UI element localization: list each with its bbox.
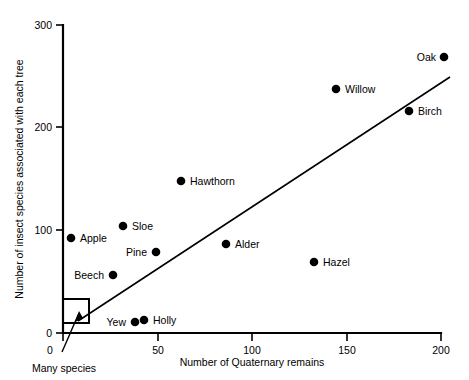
point-label: Hazel: [323, 256, 350, 268]
data-point-sloe[interactable]: Sloe: [119, 220, 153, 232]
point-marker[interactable]: [67, 234, 76, 243]
point-label: Pine: [126, 246, 147, 258]
x-axis-ticks: [63, 333, 441, 341]
point-label: Holly: [153, 314, 177, 326]
data-point-oak[interactable]: Oak: [417, 51, 449, 63]
y-axis-title: Number of insect species associated with…: [13, 59, 25, 298]
data-point-beech[interactable]: Beech: [74, 269, 117, 281]
scatter-chart: 300 200 100 0 0 50 100 150 200 Number of…: [0, 0, 469, 380]
data-points: Oak Willow Birch Hawthorn Sloe Apple: [67, 51, 449, 328]
x-tick-label-100: 100: [243, 344, 261, 356]
point-label: Alder: [235, 238, 260, 250]
trend-line: [78, 77, 450, 321]
point-label: Sloe: [132, 220, 153, 232]
x-tick-label-0: 0: [47, 344, 53, 356]
point-marker[interactable]: [440, 53, 449, 62]
y-tick-label-100: 100: [34, 224, 52, 236]
point-marker[interactable]: [109, 271, 118, 280]
point-label: Hawthorn: [190, 175, 235, 187]
point-label: Birch: [418, 105, 442, 117]
point-label: Apple: [80, 232, 107, 244]
data-point-hawthorn[interactable]: Hawthorn: [177, 175, 235, 187]
data-point-alder[interactable]: Alder: [222, 238, 260, 250]
point-label: Oak: [417, 51, 437, 63]
data-point-pine[interactable]: Pine: [126, 246, 160, 258]
data-point-willow[interactable]: Willow: [332, 83, 376, 95]
y-tick-label-0: 0: [46, 327, 52, 339]
y-tick-label-300: 300: [34, 19, 52, 31]
point-label: Beech: [74, 269, 104, 281]
point-marker[interactable]: [131, 318, 140, 327]
plot-canvas: 300 200 100 0 0 50 100 150 200 Number of…: [0, 0, 469, 380]
point-marker[interactable]: [177, 177, 186, 186]
many-species-label: Many species: [32, 362, 96, 374]
x-tick-label-150: 150: [338, 344, 356, 356]
data-point-yew[interactable]: Yew: [107, 316, 140, 328]
point-marker[interactable]: [152, 248, 161, 257]
point-label: Yew: [107, 316, 127, 328]
point-marker[interactable]: [332, 85, 341, 94]
x-tick-label-50: 50: [152, 344, 164, 356]
point-marker[interactable]: [310, 258, 319, 267]
data-point-birch[interactable]: Birch: [405, 105, 442, 117]
point-marker[interactable]: [405, 107, 414, 116]
point-label: Willow: [345, 83, 376, 95]
data-point-apple[interactable]: Apple: [67, 232, 107, 244]
x-axis-title: Number of Quaternary remains: [180, 356, 325, 368]
data-point-hazel[interactable]: Hazel: [310, 256, 350, 268]
y-tick-label-200: 200: [34, 121, 52, 133]
data-point-holly[interactable]: Holly: [140, 314, 177, 326]
point-marker[interactable]: [119, 222, 128, 231]
x-tick-label-200: 200: [432, 344, 450, 356]
point-marker[interactable]: [140, 316, 149, 325]
point-marker[interactable]: [222, 240, 231, 249]
